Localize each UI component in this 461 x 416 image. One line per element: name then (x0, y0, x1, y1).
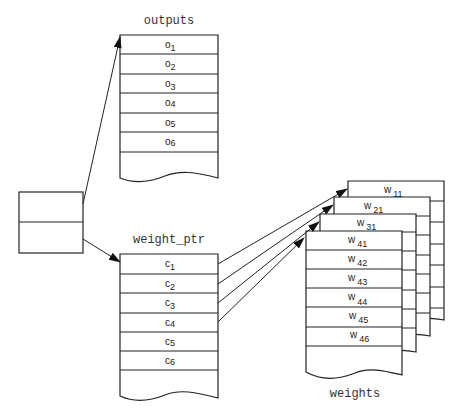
outputs-array: outputs o1 o2 o3 o4 o5 o6 (120, 14, 218, 182)
outputs-cell: o4 (165, 97, 176, 109)
weights-sheet-4: w41 w42 w43 w44 w45 w46 (306, 231, 402, 378)
weight-ptr-cell: c6 (165, 355, 175, 367)
outputs-label: outputs (144, 14, 194, 28)
weight-ptr-cell: c5 (165, 336, 175, 348)
weight-ptr-cell: c4 (165, 317, 175, 329)
weight-ptr-label: weight_ptr (133, 233, 205, 247)
outputs-cell: o5 (165, 117, 176, 129)
arrow-layer-to-outputs (83, 37, 120, 204)
weight-ptr-array: weight_ptr c1 c2 c3 c4 c5 c6 (120, 233, 218, 400)
arrow-c4-to-sheet4 (218, 238, 304, 322)
weights-stack: w11 w21 w31 (306, 181, 444, 401)
arrow-layer-to-weight-ptr (83, 239, 120, 262)
outputs-box (120, 35, 218, 182)
outputs-cell: o6 (165, 136, 176, 148)
layer-struct: layer (19, 192, 83, 253)
diagram-canvas: outputs o1 o2 o3 o4 o5 o6 layer weight_p… (0, 0, 461, 416)
weights-label: weights (330, 387, 380, 401)
